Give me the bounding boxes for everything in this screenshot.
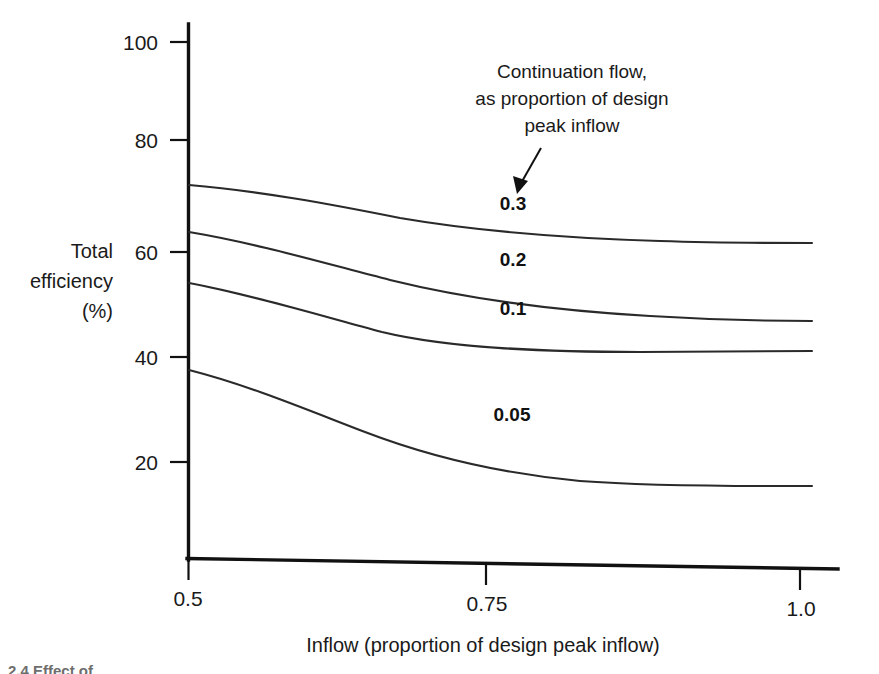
x-tick-label-0-75: 0.75 [467,592,508,615]
figure-caption-partial: 2.4 Effect of [8,663,328,674]
annotation-line-2: as proportion of design [475,88,668,109]
curve-label-0-05: 0.05 [494,404,531,425]
x-axis-line [187,559,838,570]
annotation-line-3: peak inflow [524,115,619,136]
y-tick-marks [170,42,188,462]
y-tick-labels: 100 80 60 40 20 [123,31,158,474]
curve-labels: 0.3 0.2 0.1 0.05 [494,193,531,425]
y-axis-title-line-3: (%) [82,300,113,322]
annotation-arrow-head-icon [513,176,528,194]
y-axis-title: Total efficiency (%) [30,240,113,322]
curve-0-05 [189,370,812,486]
y-tick-label-60: 60 [135,241,158,264]
y-tick-label-20: 20 [135,451,158,474]
curve-group [189,185,812,486]
y-tick-label-40: 40 [135,346,158,369]
x-axis-title: Inflow (proportion of design peak inflow… [306,634,660,656]
annotation-line-1: Continuation flow, [497,61,647,82]
figure-root: 100 80 60 40 20 0.5 0.75 1.0 Total effic… [0,0,879,674]
chart-canvas: 100 80 60 40 20 0.5 0.75 1.0 Total effic… [0,0,879,674]
y-tick-label-100: 100 [123,31,158,54]
x-tick-label-0-5: 0.5 [173,587,202,610]
x-tick-labels: 0.5 0.75 1.0 [173,587,815,620]
curve-label-0-2: 0.2 [500,249,526,270]
y-axis-title-line-2: efficiency [30,270,113,292]
curve-label-0-3: 0.3 [500,193,526,214]
x-tick-label-1-0: 1.0 [786,597,815,620]
y-axis-title-line-1: Total [71,240,113,262]
y-tick-label-80: 80 [135,129,158,152]
annotation-block: Continuation flow, as proportion of desi… [475,61,668,136]
annotation-arrow [513,148,541,194]
curve-label-0-1: 0.1 [500,298,527,319]
